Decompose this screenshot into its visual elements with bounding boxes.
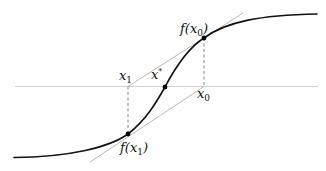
label-f-x1: f(x1) — [119, 140, 148, 157]
label-f-x0: f(x0) — [179, 21, 208, 38]
label-x1: x1 — [119, 68, 132, 85]
label-x0: x0 — [197, 86, 210, 103]
point-f-x1 — [126, 132, 131, 137]
label-x-star: x* — [151, 67, 162, 82]
secant-method-diagram: f(x0) x1 x* x0 f(x1) — [0, 0, 326, 171]
point-x-star — [163, 85, 168, 90]
